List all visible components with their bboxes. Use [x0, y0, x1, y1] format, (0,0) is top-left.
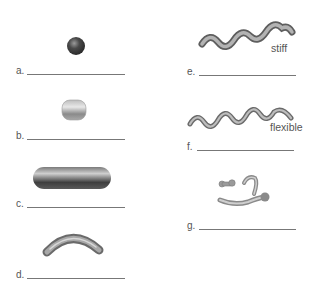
sphere-cell-icon	[66, 36, 86, 56]
pleomorphic-cell-icon	[216, 172, 280, 212]
answer-line-a[interactable]	[27, 74, 125, 75]
answer-line-e[interactable]	[199, 75, 296, 76]
label-g: g.	[187, 221, 195, 231]
label-b: b.	[16, 131, 24, 141]
answer-line-g[interactable]	[199, 229, 296, 230]
rod-cell-icon	[32, 166, 112, 190]
annotation-stiff: stiff	[271, 43, 287, 54]
annotation-flexible: flexible	[270, 122, 303, 133]
label-d: d.	[16, 270, 24, 280]
answer-line-c[interactable]	[27, 207, 125, 208]
label-a: a.	[16, 66, 24, 76]
label-e: e.	[187, 67, 195, 77]
label-f: f.	[187, 142, 193, 152]
answer-line-d[interactable]	[27, 278, 125, 279]
curved-rod-cell-icon	[42, 226, 104, 258]
answer-line-b[interactable]	[27, 139, 125, 140]
rounded-cube-cell-icon	[61, 99, 87, 121]
label-c: c.	[16, 199, 24, 209]
answer-line-f[interactable]	[197, 150, 294, 151]
